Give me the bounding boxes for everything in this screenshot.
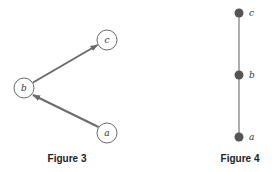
node-b: b (14, 78, 34, 98)
node-a-label: a (104, 128, 109, 138)
dot-b-label: b (249, 70, 255, 80)
dot-c: c (235, 8, 255, 18)
figure-3-caption: Figure 3 (48, 153, 87, 164)
node-a: a (97, 123, 117, 143)
node-b-label: b (21, 83, 27, 93)
edge-a-to-b (33, 95, 99, 127)
dot-b: b (235, 70, 256, 80)
figure-3-graph: c b a (14, 30, 117, 143)
edge-b-to-c (33, 45, 98, 83)
node-c-label: c (104, 35, 109, 45)
node-c: c (97, 30, 117, 50)
figure-4-caption: Figure 4 (221, 153, 260, 164)
dot-a-label: a (249, 132, 254, 142)
dot-a: a (235, 132, 255, 142)
dot-c-label: c (249, 8, 254, 18)
figure-4-hasse: c b a (235, 8, 256, 142)
diagram-canvas: c b a c b a (0, 0, 278, 172)
